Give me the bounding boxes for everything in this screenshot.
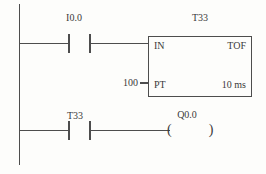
- rung1-contact-left-leg: [68, 34, 70, 53]
- timer-title: T33: [180, 12, 220, 23]
- ladder-diagram: I0.0 T33 IN TOF PT 10 ms 100 T33 Q0.0 ( …: [0, 0, 266, 174]
- rung1-wire-contact-to-timer: [90, 43, 148, 44]
- rung1-wire-rail-to-contact: [19, 43, 68, 44]
- rung1-contact-label: I0.0: [54, 12, 94, 23]
- timer-timebase-label: 10 ms: [222, 79, 246, 90]
- rung2-contact-left-leg: [68, 121, 70, 140]
- timer-in-label: IN: [154, 40, 165, 51]
- coil-label: Q0.0: [167, 109, 207, 120]
- timer-type-label: TOF: [227, 40, 246, 51]
- timer-pt-stub-wire: [140, 82, 148, 83]
- timer-pt-label: PT: [154, 79, 166, 90]
- timer-block: IN TOF PT 10 ms: [148, 36, 252, 97]
- coil-symbol: ( ): [167, 122, 213, 138]
- rung2-wire-rail-to-contact: [19, 130, 68, 131]
- timer-pt-value: 100: [112, 77, 138, 88]
- power-rail-left: [19, 4, 20, 165]
- rung2-wire-contact-to-coil: [90, 130, 170, 131]
- rung2-contact-label: T33: [55, 110, 95, 121]
